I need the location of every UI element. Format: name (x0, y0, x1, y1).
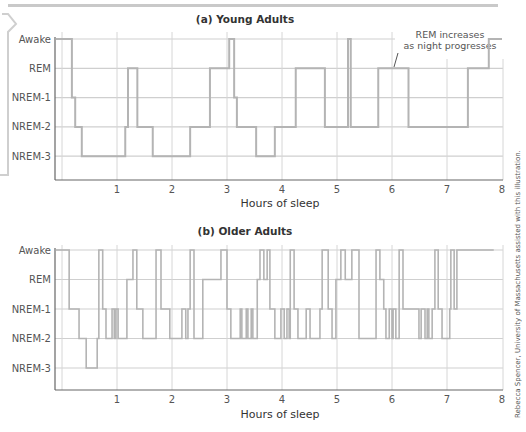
y-tick-label: REM (29, 274, 51, 285)
y-axis-labels: AwakeREMNREM-1NREM-2NREM-3 (12, 245, 51, 374)
y-tick-label: NREM-1 (12, 304, 51, 315)
x-tick-label: 3 (224, 394, 230, 405)
chart-title-young: (a) Young Adults (196, 13, 294, 25)
y-tick-label: NREM-2 (12, 333, 51, 344)
x-tick-label: 8 (499, 394, 505, 405)
x-tick-label: 7 (444, 394, 450, 405)
annotation-line-2: as night progresses (403, 40, 496, 51)
x-tick-label: 8 (499, 184, 505, 195)
chart-title-older: (b) Older Adults (198, 225, 293, 237)
annotation-line-1: REM increases (416, 29, 485, 40)
x-tick-label: 6 (389, 394, 395, 405)
y-tick-label: Awake (19, 245, 51, 256)
grid (55, 245, 503, 390)
x-tick-label: 7 (444, 184, 450, 195)
x-tick-label: 2 (169, 184, 175, 195)
chart-older-adults: (b) Older Adults AwakeREMNREM-1NREM-2NRE… (12, 225, 506, 421)
x-axis-label-young: Hours of sleep (240, 197, 319, 210)
x-tick-label: 5 (334, 184, 340, 195)
x-tick-label: 4 (279, 394, 285, 405)
rem-annotation: REM increases as night progresses (394, 29, 507, 67)
x-axis-label-older: Hours of sleep (240, 408, 319, 421)
y-axis-labels: AwakeREMNREM-1NREM-2NREM-3 (12, 34, 51, 162)
x-axis-ticks: 12345678 (114, 394, 505, 405)
x-tick-label: 5 (334, 394, 340, 405)
x-tick-label: 1 (114, 184, 120, 195)
x-tick-label: 2 (169, 394, 175, 405)
y-tick-label: REM (29, 63, 51, 74)
y-tick-label: NREM-1 (12, 92, 51, 103)
x-axis-ticks: 12345678 (114, 184, 505, 195)
sleep-hypnogram-figure: (a) Young Adults AwakeREMNREM-1NREM-2NRE… (0, 0, 526, 432)
y-tick-label: NREM-3 (12, 363, 51, 374)
x-tick-label: 3 (224, 184, 230, 195)
y-tick-label: Awake (19, 34, 51, 45)
image-credit: Rebecca Spencer, University of Massachus… (514, 150, 522, 418)
x-tick-label: 6 (389, 184, 395, 195)
y-tick-label: NREM-3 (12, 151, 51, 162)
x-tick-label: 1 (114, 394, 120, 405)
x-tick-label: 4 (279, 184, 285, 195)
chart-young-adults: (a) Young Adults AwakeREMNREM-1NREM-2NRE… (12, 13, 507, 210)
y-tick-label: NREM-2 (12, 121, 51, 132)
